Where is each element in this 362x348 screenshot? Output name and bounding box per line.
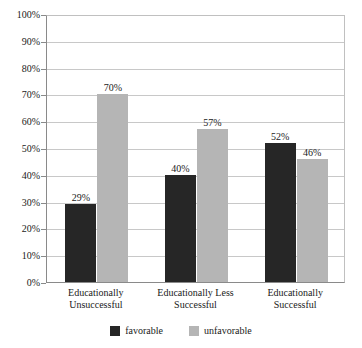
bar-favorable [65,204,96,282]
x-axis-category-label: Educationally LessSuccessful [157,287,233,311]
bar-favorable [265,143,296,282]
bars-layer: 29%70%40%57%52%46% [47,16,344,282]
legend-item-favorable: favorable [110,326,163,336]
y-axis-tick-label: 60% [22,117,40,127]
y-axis-tick-label: 20% [22,224,40,234]
bar-value-label: 52% [271,132,289,142]
y-axis-tick-label: 80% [22,64,40,74]
legend-item-unfavorable: unfavorable [189,326,252,336]
y-axis-tick-mark [41,283,46,284]
chart-legend: favorableunfavorable [0,326,362,336]
bar-chart: 0%10%20%30%40%50%60%70%80%90%100% 29%70%… [0,0,362,348]
legend-swatch-favorable [110,326,120,336]
y-axis-tick-label: 90% [22,37,40,47]
x-axis-labels: EducationallyUnsuccessfulEducationally L… [46,287,345,319]
y-axis-tick-label: 70% [22,90,40,100]
bar-value-label: 29% [72,193,90,203]
y-axis-labels: 0%10%20%30%40%50%60%70%80%90%100% [0,15,40,283]
x-axis-category-line: Successful [157,299,233,311]
x-axis-category-label: EducationallySuccessful [267,287,323,311]
x-axis-category-line: Successful [267,299,323,311]
x-axis-category-line: Educationally [267,287,323,299]
x-axis-category-line: Educationally Less [157,287,233,299]
bar-unfavorable [197,129,228,282]
y-axis-tick-label: 0% [27,278,40,288]
bar-favorable [165,175,196,282]
legend-swatch-unfavorable [189,326,199,336]
bar-value-label: 40% [171,164,189,174]
x-axis-category-line: Unsuccessful [68,299,124,311]
bar-value-label: 57% [203,118,221,128]
plot-area: 29%70%40%57%52%46% [46,15,345,283]
bar-unfavorable [297,159,328,282]
bar-unfavorable [97,94,128,282]
legend-label: favorable [125,326,163,336]
bar-value-label: 70% [104,83,122,93]
y-axis-tick-label: 100% [17,10,40,20]
y-axis-tick-label: 10% [22,251,40,261]
x-axis-category-line: Educationally [68,287,124,299]
y-axis-tick-label: 50% [22,144,40,154]
x-axis-category-label: EducationallyUnsuccessful [68,287,124,311]
bar-value-label: 46% [303,148,321,158]
y-axis-tick-label: 40% [22,171,40,181]
y-axis-tick-label: 30% [22,198,40,208]
legend-label: unfavorable [204,326,252,336]
